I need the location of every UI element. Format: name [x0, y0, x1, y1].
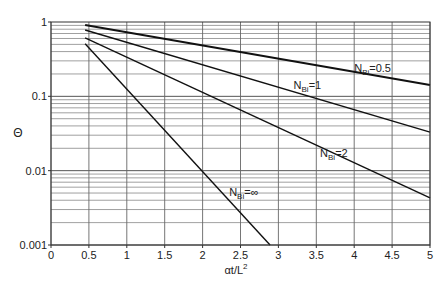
x-tick-label: 0: [48, 249, 54, 261]
x-tick-label: 5: [427, 249, 433, 261]
y-axis-label: Θ: [13, 126, 22, 140]
x-tick-label: 4: [351, 249, 357, 261]
series-line: [85, 30, 430, 132]
series-label: NBi=2: [320, 147, 348, 162]
series-labels: NBi=0.5NBi=1NBi=2NBi=∞: [229, 62, 391, 201]
x-axis-ticks: 00.511.522.533.544.55: [48, 245, 433, 261]
x-tick-label: 1: [124, 249, 130, 261]
x-tick-label: 2: [200, 249, 206, 261]
series-line: [85, 25, 430, 85]
chart: 00.511.522.533.544.55 0.0010.010.11 NBi=…: [0, 0, 443, 286]
x-tick-label: 4.5: [384, 249, 399, 261]
x-tick-label: 3.5: [309, 249, 324, 261]
x-tick-label: 2.5: [233, 249, 248, 261]
y-tick-label: 0.1: [32, 90, 47, 102]
y-tick-label: 0.01: [26, 165, 47, 177]
series-label: NBi=∞: [229, 186, 258, 201]
y-axis-ticks: 0.0010.010.11: [19, 16, 51, 251]
y-tick-label: 1: [41, 16, 47, 28]
x-tick-label: 1.5: [157, 249, 172, 261]
grid: [51, 22, 430, 245]
x-tick-label: 0.5: [81, 249, 96, 261]
y-tick-label: 0.001: [19, 239, 47, 251]
x-axis-label: αt/L2: [224, 262, 248, 276]
series-label: NBi=1: [294, 79, 322, 94]
x-tick-label: 3: [275, 249, 281, 261]
